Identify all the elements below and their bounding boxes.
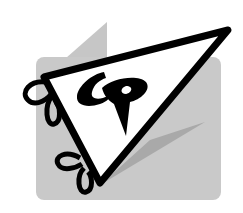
cp-pennant-logo bbox=[0, 0, 243, 213]
